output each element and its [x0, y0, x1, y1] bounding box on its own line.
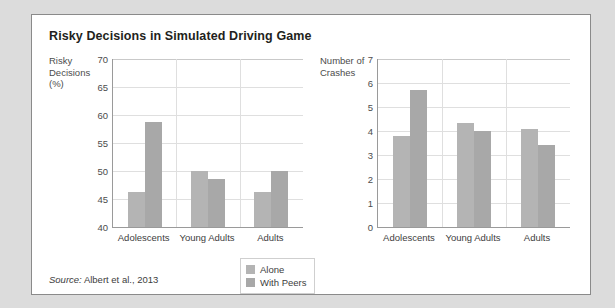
x-axis-tick-label: Young Adults [179, 232, 234, 243]
chart-panel-number-of-crashes: Number of Crashes 76543210 AdolescentsYo… [320, 55, 578, 240]
y-axis-tick-label: 2 [368, 174, 373, 185]
source-note: Source: Albert et al., 2013 [49, 274, 158, 285]
y-axis-tick-label: 4 [368, 126, 373, 137]
x-axis-tick-label: Adolescents [383, 232, 435, 243]
gridline [113, 87, 303, 88]
y-axis-tick-label: 6 [368, 78, 373, 89]
legend-item-with-peers: With Peers [246, 276, 306, 289]
bar-alone [457, 123, 474, 227]
plot-area-right: 76543210 [377, 59, 570, 228]
y-axis-tick-label: 55 [97, 138, 108, 149]
bar-alone [521, 129, 538, 227]
y-axis-tick-label: 5 [368, 102, 373, 113]
y-axis-tick-label: 0 [368, 222, 373, 233]
gridline [113, 59, 303, 60]
gridline [378, 83, 570, 84]
y-axis-tick-label: 3 [368, 150, 373, 161]
legend: Alone With Peers [240, 258, 315, 294]
bar-with-peers [271, 171, 288, 227]
bar-group [442, 123, 506, 227]
y-axis-tick-label: 50 [97, 166, 108, 177]
bar-group [506, 129, 570, 227]
y-axis-tick-label: 7 [368, 54, 373, 65]
page-title: Risky Decisions in Simulated Driving Gam… [49, 29, 312, 43]
y-axis-tick-label: 60 [97, 110, 108, 121]
x-axis-tick-label: Adults [524, 232, 550, 243]
gridline [378, 59, 570, 60]
legend-item-alone: Alone [246, 263, 306, 276]
alone-swatch [246, 265, 255, 274]
bar-with-peers [208, 179, 225, 227]
y-axis-tick-label: 70 [97, 54, 108, 65]
bar-alone [191, 171, 208, 227]
y-axis-tick-label: 1 [368, 198, 373, 209]
chart-panel-risky-decisions: Risky Decisions (%) 70656055504540 Adole… [49, 55, 311, 240]
with-peers-swatch [246, 278, 255, 287]
figure-card: Risky Decisions in Simulated Driving Gam… [31, 14, 591, 295]
bar-with-peers [474, 131, 491, 227]
source-citation: Albert et al., 2013 [84, 274, 158, 285]
y-axis-tick-label: 45 [97, 194, 108, 205]
x-axis-tick-label: Adolescents [118, 232, 170, 243]
bar-group [113, 122, 176, 227]
y-axis-tick-label: 40 [97, 222, 108, 233]
bar-alone [393, 136, 410, 227]
bar-with-peers [145, 122, 162, 227]
bar-alone [128, 192, 145, 227]
x-axis-tick-label: Young Adults [445, 232, 500, 243]
gridline [113, 115, 303, 116]
bar-alone [254, 192, 271, 227]
y-axis-tick-label: 65 [97, 82, 108, 93]
bar-with-peers [538, 145, 555, 227]
source-label: Source: [49, 274, 82, 285]
plot-area-left: 70656055504540 [112, 59, 303, 228]
x-axis-tick-label: Adults [257, 232, 283, 243]
bar-group [378, 90, 442, 227]
bar-group [176, 171, 239, 227]
legend-label-alone: Alone [260, 264, 284, 275]
legend-label-with-peers: With Peers [260, 277, 306, 288]
bar-group [240, 171, 303, 227]
bar-with-peers [410, 90, 427, 227]
